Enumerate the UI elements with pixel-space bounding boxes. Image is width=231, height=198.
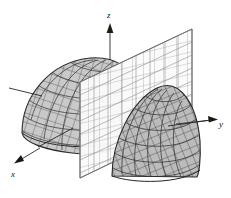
x-axis-label: x (10, 169, 15, 179)
surface-plot-svg: z (0, 0, 231, 198)
z-axis-label: z (106, 10, 111, 20)
figure-container: z (0, 0, 231, 198)
y-axis-label: y (218, 119, 223, 129)
